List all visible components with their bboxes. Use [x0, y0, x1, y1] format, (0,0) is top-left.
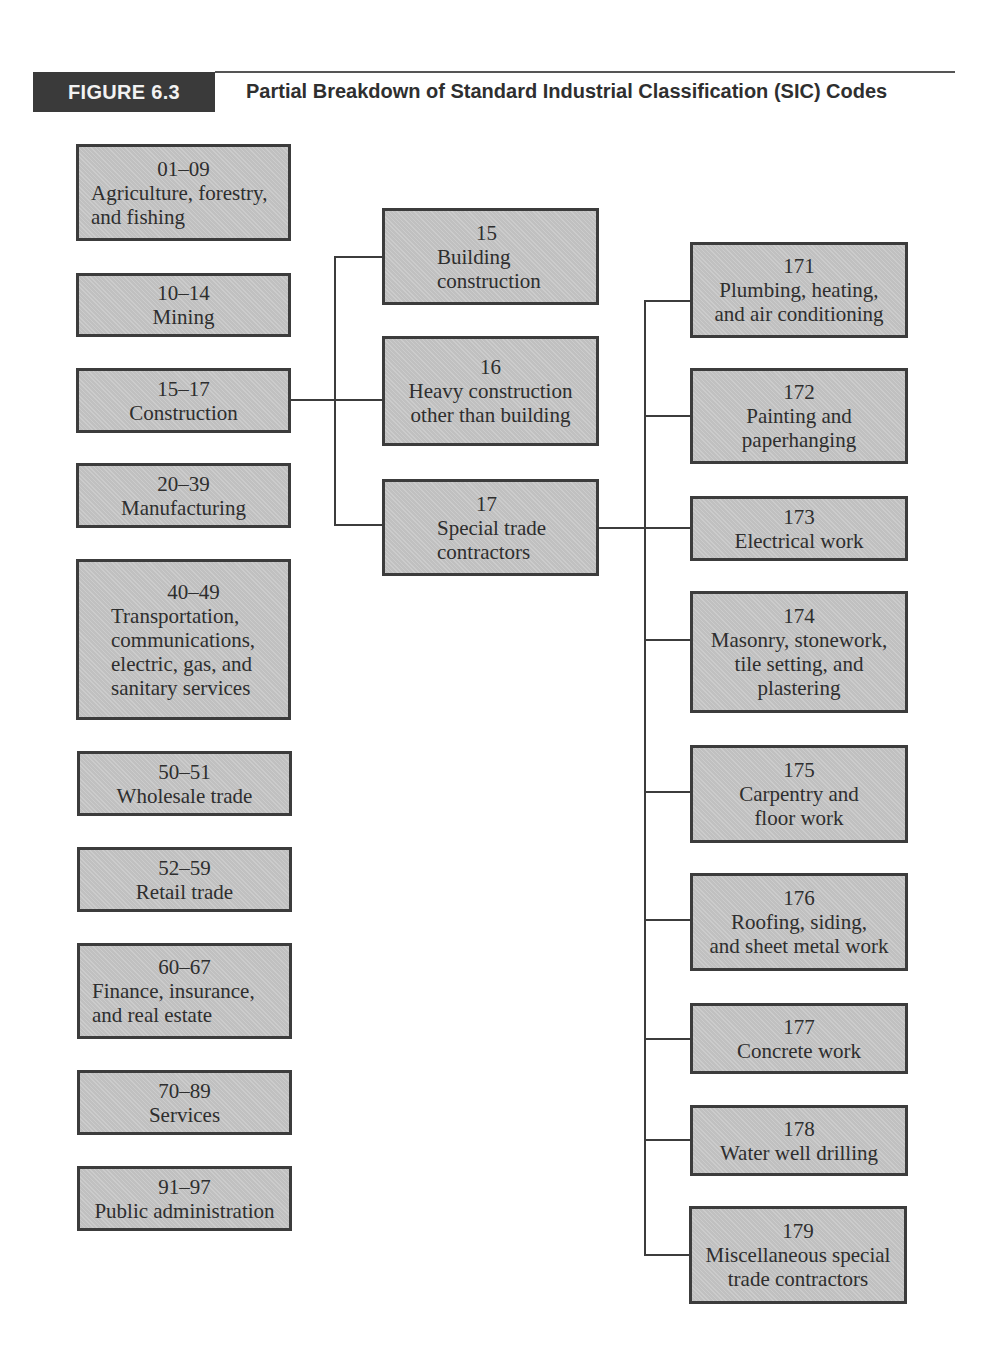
connector-line: [644, 1254, 691, 1256]
industry-code: 171: [783, 254, 815, 278]
division-code: 91–97: [158, 1175, 211, 1199]
connector-line: [334, 256, 336, 526]
industry-label: Water well drilling: [720, 1141, 878, 1165]
industry-label: Painting and paperhanging: [742, 404, 856, 452]
figure-label: FIGURE 6.3: [33, 72, 215, 112]
division-label: Manufacturing: [121, 496, 246, 520]
connector-line: [644, 791, 691, 793]
industry-box-178: 178 Water well drilling: [690, 1105, 908, 1176]
industry-label: Plumbing, heating, and air conditioning: [714, 278, 883, 326]
division-box-01-09: 01–09 Agriculture, forestry, and fishing: [76, 144, 291, 241]
industry-label: Carpentry and floor work: [739, 782, 859, 830]
industry-box-177: 177 Concrete work: [690, 1003, 908, 1074]
industry-box-179: 179 Miscellaneous special trade contract…: [689, 1206, 907, 1304]
division-code: 50–51: [158, 760, 211, 784]
division-code: 40–49: [167, 580, 220, 604]
division-box-20-39: 20–39 Manufacturing: [76, 463, 291, 528]
group-box-15: 15 Building construction: [382, 208, 599, 305]
industry-code: 177: [783, 1015, 815, 1039]
group-box-16: 16 Heavy construction other than buildin…: [382, 336, 599, 446]
division-label: Transportation, communications, electric…: [107, 604, 280, 700]
connector-line: [644, 300, 646, 1256]
industry-box-171: 171 Plumbing, heating, and air condition…: [690, 242, 908, 338]
division-code: 01–09: [157, 157, 210, 181]
division-box-60-67: 60–67 Finance, insurance, and real estat…: [77, 943, 292, 1039]
industry-label: Electrical work: [735, 529, 864, 553]
figure-title: Partial Breakdown of Standard Industrial…: [246, 80, 936, 103]
connector-line: [644, 300, 691, 302]
connector-line: [644, 1139, 691, 1141]
connector-line: [334, 524, 383, 526]
group-code: 17: [476, 492, 497, 516]
connector-line: [334, 256, 383, 258]
division-label: Retail trade: [136, 880, 233, 904]
industry-box-176: 176 Roofing, siding, and sheet metal wor…: [690, 873, 908, 971]
division-box-70-89: 70–89 Services: [77, 1070, 292, 1135]
group-label: Heavy construction other than building: [409, 379, 573, 427]
division-code: 10–14: [157, 281, 210, 305]
group-label: Building construction: [433, 245, 588, 293]
group-code: 16: [480, 355, 501, 379]
industry-label: Roofing, siding, and sheet metal work: [709, 910, 888, 958]
industry-box-174: 174 Masonry, stonework, tile setting, an…: [690, 591, 908, 713]
division-code: 60–67: [158, 955, 211, 979]
division-box-91-97: 91–97 Public administration: [77, 1166, 292, 1231]
industry-label: Masonry, stonework, tile setting, and pl…: [711, 628, 888, 700]
industry-box-175: 175 Carpentry and floor work: [690, 745, 908, 843]
industry-code: 179: [782, 1219, 814, 1243]
connector-line: [291, 399, 383, 401]
group-box-17: 17 Special trade contractors: [382, 479, 599, 576]
industry-code: 175: [783, 758, 815, 782]
division-code: 70–89: [158, 1079, 211, 1103]
division-box-10-14: 10–14 Mining: [76, 273, 291, 337]
industry-code: 173: [783, 505, 815, 529]
division-label: Construction: [129, 401, 238, 425]
connector-line: [644, 639, 691, 641]
division-label: Mining: [153, 305, 215, 329]
division-label: Services: [149, 1103, 220, 1127]
division-box-15-17: 15–17 Construction: [76, 368, 291, 433]
division-box-50-51: 50–51 Wholesale trade: [77, 751, 292, 816]
division-label: Public administration: [94, 1199, 274, 1223]
industry-code: 172: [783, 380, 815, 404]
division-label: Wholesale trade: [117, 784, 253, 808]
connector-line: [644, 1038, 691, 1040]
division-code: 52–59: [158, 856, 211, 880]
division-code: 20–39: [157, 472, 210, 496]
connector-line: [644, 919, 691, 921]
division-code: 15–17: [157, 377, 210, 401]
industry-label: Miscellaneous special trade contractors: [706, 1243, 891, 1291]
division-label: Finance, insurance, and real estate: [88, 979, 281, 1027]
industry-code: 176: [783, 886, 815, 910]
division-box-52-59: 52–59 Retail trade: [77, 847, 292, 912]
industry-code: 174: [783, 604, 815, 628]
connector-line: [644, 415, 691, 417]
industry-label: Concrete work: [737, 1039, 861, 1063]
industry-code: 178: [783, 1117, 815, 1141]
group-label: Special trade contractors: [433, 516, 588, 564]
industry-box-172: 172 Painting and paperhanging: [690, 368, 908, 464]
group-code: 15: [476, 221, 497, 245]
division-label: Agriculture, forestry, and fishing: [87, 181, 280, 229]
header-rule: [215, 71, 955, 73]
industry-box-173: 173 Electrical work: [690, 496, 908, 561]
division-box-40-49: 40–49 Transportation, communications, el…: [76, 559, 291, 720]
